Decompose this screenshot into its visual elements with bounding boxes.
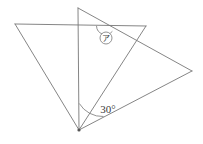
segment-left-to-bottom-apex xyxy=(15,24,79,130)
segment-right-to-bottom-apex xyxy=(79,71,192,130)
bottom-apex-dot xyxy=(77,128,80,131)
geometry-canvas: ア 30° xyxy=(0,0,203,144)
angle-label-30-degrees: 30° xyxy=(100,103,115,115)
segment-top-apex-to-right xyxy=(78,8,192,71)
circled-marker-label: ア xyxy=(102,34,110,43)
segment-left-to-upper-right xyxy=(15,24,146,26)
segment-top-apex-to-bottom-apex xyxy=(78,8,79,130)
geometry-figure: ア 30° xyxy=(0,0,203,144)
